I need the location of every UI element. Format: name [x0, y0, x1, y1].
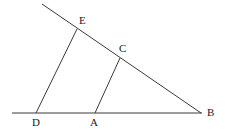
geometry-figure: E C D A B: [0, 0, 225, 134]
point-label-d: D: [32, 117, 40, 128]
point-label-a: A: [90, 117, 98, 128]
geometry-canvas: [0, 0, 225, 134]
point-label-c: C: [119, 43, 126, 54]
segment-ac-line: [95, 58, 120, 113]
diagonal-ray-line: [42, 4, 201, 113]
point-label-b: B: [207, 107, 214, 118]
point-label-e: E: [79, 15, 86, 26]
segment-de-line: [36, 29, 77, 113]
